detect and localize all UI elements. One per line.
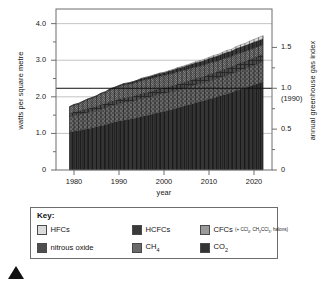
legend: Key: HFCs HCFCs CFCs (+ CCl4, CH3CCl3, h…	[30, 207, 278, 259]
y-axis-left-tick: 0	[20, 165, 46, 174]
x-axis-tick: 2010	[189, 177, 229, 186]
legend-item-hfcs: HFCs	[37, 223, 70, 236]
legend-item-cfcs: CFCs (+ CCl4, CH3CCl3, halons)	[200, 223, 288, 236]
y-axis-left-tick: 4.0	[20, 19, 46, 28]
hfcs-swatch-icon	[37, 225, 47, 235]
x-axis-tick: 2000	[144, 177, 184, 186]
legend-item-ch4: CH4	[132, 241, 160, 254]
legend-title: Key:	[37, 211, 54, 220]
y-axis-right-annotation: (1990)	[281, 94, 315, 103]
legend-item-nitrous-oxide: nitrous oxide	[37, 241, 94, 254]
y-axis-right-tick: 0.5	[281, 124, 315, 133]
legend-label-co2: CO2	[214, 242, 228, 253]
chart-plot-container: watts per square metre annual greenhouse…	[0, 0, 332, 205]
x-axis-tick: 1980	[54, 177, 94, 186]
x-axis-tick: 1990	[99, 177, 139, 186]
legend-label-cfcs: CFCs	[214, 225, 233, 234]
x-axis-tick: 2020	[234, 177, 274, 186]
greenhouse-gas-figure: watts per square metre annual greenhouse…	[0, 0, 332, 289]
nitrous-oxide-swatch-icon	[37, 243, 47, 253]
legend-note-cfcs: (+ CCl4, CH3CCl3, halons)	[235, 227, 288, 234]
legend-label-nitrous-oxide: nitrous oxide	[51, 243, 94, 252]
y-axis-left-tick: 3.0	[20, 55, 46, 64]
y-axis-right-tick: 0	[281, 165, 315, 174]
legend-label-ch4: CH4	[146, 242, 160, 253]
legend-label-hfcs: HFCs	[51, 225, 70, 234]
legend-item-co2: CO2	[200, 241, 228, 254]
legend-item-hcfcs: HCFCs	[132, 223, 170, 236]
y-axis-left-tick: 2.0	[20, 92, 46, 101]
y-axis-right-tick: 1.5	[281, 42, 315, 51]
ch4-swatch-icon	[132, 243, 142, 253]
hcfcs-swatch-icon	[132, 225, 142, 235]
y-axis-left-tick: 1.0	[20, 128, 46, 137]
triangle-marker-icon	[8, 266, 24, 279]
cfcs-swatch-icon	[200, 225, 210, 235]
x-axis-title: year	[56, 188, 272, 197]
legend-label-hcfcs: HCFCs	[146, 225, 171, 234]
co2-swatch-icon	[200, 243, 210, 253]
y-axis-right-tick: 1.0	[281, 83, 315, 92]
